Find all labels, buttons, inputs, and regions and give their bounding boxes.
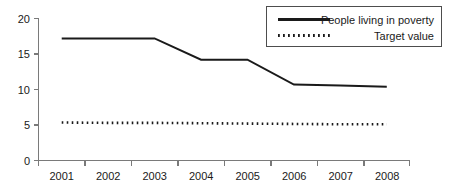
y-tick-label-0: 0 — [24, 155, 30, 167]
x-tick-label-2008: 2008 — [375, 170, 399, 182]
legend-label-people-living-in-poverty: People living in poverty — [321, 14, 435, 26]
chart-canvas: 20 15 10 5 0 2001 2002 2003 2004 2005 20… — [0, 0, 453, 193]
x-tick-label-2004: 2004 — [189, 170, 213, 182]
x-tick-label-2007: 2007 — [328, 170, 352, 182]
y-tick-label-15: 15 — [18, 48, 30, 60]
x-tick-label-2006: 2006 — [282, 170, 306, 182]
poverty-line-chart: 20 15 10 5 0 2001 2002 2003 2004 2005 20… — [0, 0, 453, 193]
y-tick-label-5: 5 — [24, 119, 30, 131]
chart-legend: People living in poverty Target value — [267, 7, 442, 47]
x-tick-label-2003: 2003 — [142, 170, 166, 182]
x-tick-label-2001: 2001 — [49, 170, 73, 182]
x-tick-labels: 2001 2002 2003 2004 2005 2006 2007 2008 — [49, 170, 399, 182]
y-tick-label-10: 10 — [18, 84, 30, 96]
y-tick-labels: 20 15 10 5 0 — [18, 13, 30, 167]
series-line-target-value — [62, 123, 387, 125]
y-tick-label-20: 20 — [18, 13, 30, 25]
x-tick-label-2005: 2005 — [235, 170, 259, 182]
y-tick-marks — [34, 19, 39, 161]
x-tick-marks — [39, 161, 365, 167]
x-tick-label-2002: 2002 — [96, 170, 120, 182]
legend-label-target-value: Target value — [374, 30, 434, 42]
